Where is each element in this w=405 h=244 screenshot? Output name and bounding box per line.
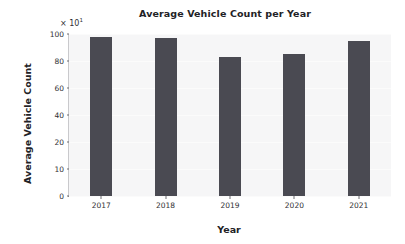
bar-2017[interactable] — [90, 37, 112, 196]
y-axis-title: Average Vehicle Count — [22, 44, 33, 204]
x-tick-mark — [101, 196, 102, 199]
y-tick-label: 0 — [59, 192, 64, 201]
x-tick-mark — [165, 196, 166, 199]
y-axis-offset-base: × 10 — [60, 19, 79, 28]
chart-title: Average Vehicle Count per Year — [60, 8, 390, 19]
x-tick-label-2020: 2020 — [285, 201, 304, 210]
x-tick-label-2021: 2021 — [349, 201, 368, 210]
x-tick-mark — [230, 196, 231, 199]
gridline — [69, 34, 391, 35]
chart-figure: Average Vehicle Count per Year × 101 Ave… — [0, 0, 405, 244]
x-axis-title: Year — [68, 224, 390, 235]
bar-2019[interactable] — [219, 57, 241, 196]
y-tick-label: 20 — [54, 138, 64, 147]
bar-2021[interactable] — [348, 41, 370, 196]
x-tick-mark — [358, 196, 359, 199]
x-tick-label-2018: 2018 — [156, 201, 175, 210]
y-tick-label: 80 — [54, 57, 64, 66]
y-tick-label: 100 — [50, 30, 64, 39]
bar-2020[interactable] — [283, 54, 305, 196]
y-tick-label: 40 — [54, 111, 64, 120]
x-tick-label-2017: 2017 — [92, 201, 111, 210]
y-tick-label: 10 — [54, 165, 64, 174]
y-axis-offset-exponent: 1 — [79, 17, 83, 23]
bar-2018[interactable] — [155, 38, 177, 196]
y-tick-label: 60 — [54, 84, 64, 93]
y-axis-offset-label: × 101 — [60, 17, 83, 28]
x-tick-label-2019: 2019 — [220, 201, 239, 210]
x-tick-mark — [294, 196, 295, 199]
plot-area: 1008060402010020172018201920202021 — [68, 34, 391, 197]
